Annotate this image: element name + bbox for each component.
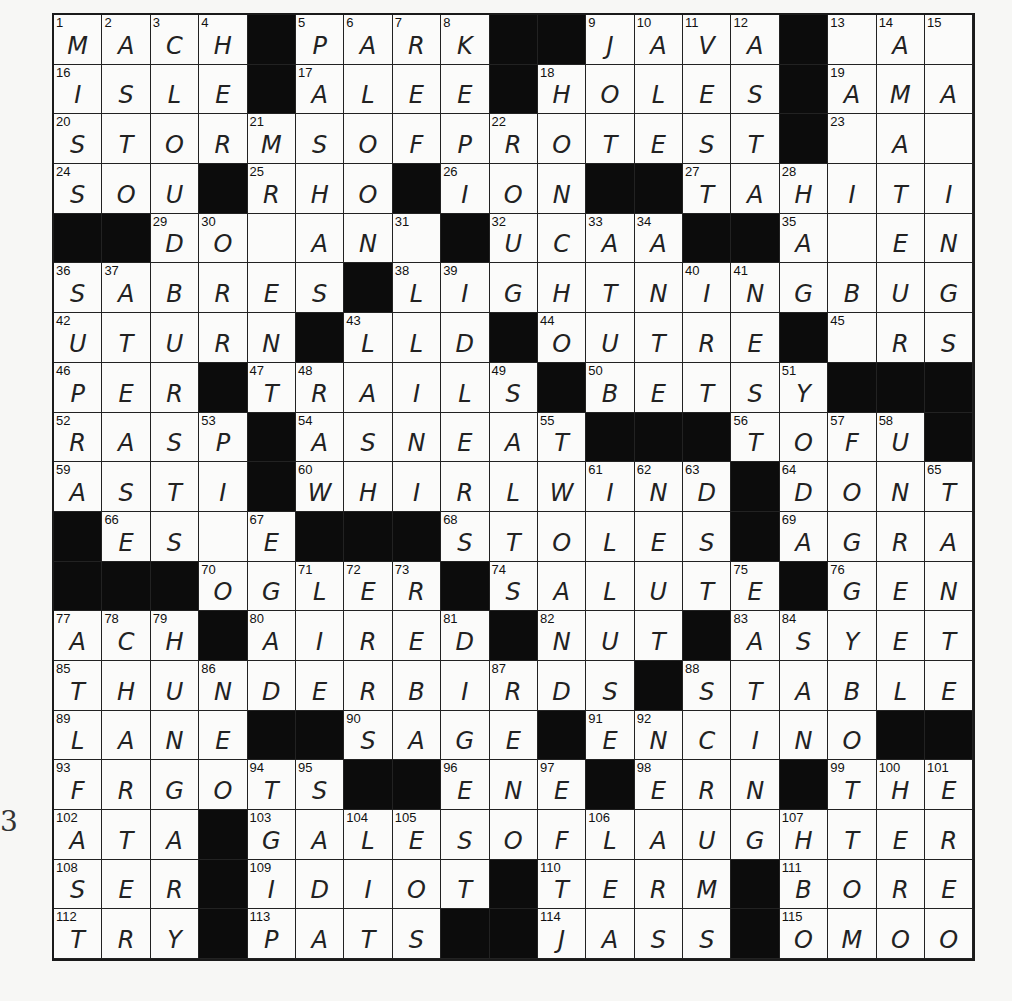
- grid-cell[interactable]: 26I: [441, 164, 489, 214]
- grid-cell[interactable]: 96E: [441, 760, 489, 810]
- grid-cell[interactable]: 11V: [683, 15, 731, 65]
- grid-cell[interactable]: E: [586, 860, 634, 910]
- grid-cell[interactable]: T: [635, 313, 683, 363]
- grid-cell[interactable]: O: [780, 413, 828, 463]
- grid-cell[interactable]: 60W: [296, 462, 344, 512]
- grid-cell[interactable]: U: [586, 313, 634, 363]
- grid-cell[interactable]: T: [683, 363, 731, 413]
- grid-cell[interactable]: T: [731, 661, 779, 711]
- grid-cell[interactable]: L: [490, 462, 538, 512]
- grid-cell[interactable]: D: [248, 661, 296, 711]
- grid-cell[interactable]: 14A: [877, 15, 925, 65]
- grid-cell[interactable]: H: [538, 263, 586, 313]
- grid-cell[interactable]: E: [877, 562, 925, 612]
- grid-cell[interactable]: S: [635, 909, 683, 959]
- grid-cell[interactable]: M: [877, 65, 925, 115]
- grid-cell[interactable]: O: [538, 114, 586, 164]
- grid-cell[interactable]: U: [683, 810, 731, 860]
- grid-cell[interactable]: O: [877, 909, 925, 959]
- grid-cell[interactable]: O: [586, 65, 634, 115]
- grid-cell[interactable]: [248, 214, 296, 264]
- grid-cell[interactable]: 95S: [296, 760, 344, 810]
- grid-cell[interactable]: T: [151, 462, 199, 512]
- grid-cell[interactable]: A: [635, 810, 683, 860]
- grid-cell[interactable]: H: [344, 462, 392, 512]
- grid-cell[interactable]: M: [683, 860, 731, 910]
- grid-cell[interactable]: 85T: [54, 661, 102, 711]
- grid-cell[interactable]: U: [151, 164, 199, 214]
- grid-cell[interactable]: 104L: [344, 810, 392, 860]
- grid-cell[interactable]: 41N: [731, 263, 779, 313]
- grid-cell[interactable]: 3C: [151, 15, 199, 65]
- grid-cell[interactable]: R: [344, 661, 392, 711]
- grid-cell[interactable]: 108S: [54, 860, 102, 910]
- grid-cell[interactable]: R: [151, 860, 199, 910]
- grid-cell[interactable]: 29D: [151, 214, 199, 264]
- grid-cell[interactable]: I: [925, 164, 973, 214]
- grid-cell[interactable]: T: [731, 114, 779, 164]
- grid-cell[interactable]: N: [925, 214, 973, 264]
- grid-cell[interactable]: D: [538, 661, 586, 711]
- grid-cell[interactable]: 70O: [199, 562, 247, 612]
- grid-cell[interactable]: R: [877, 860, 925, 910]
- grid-cell[interactable]: N: [780, 711, 828, 761]
- grid-cell[interactable]: 63D: [683, 462, 731, 512]
- grid-cell[interactable]: 88S: [683, 661, 731, 711]
- grid-cell[interactable]: 39I: [441, 263, 489, 313]
- grid-cell[interactable]: 91E: [586, 711, 634, 761]
- grid-cell[interactable]: C: [683, 711, 731, 761]
- grid-cell[interactable]: A: [925, 512, 973, 562]
- grid-cell[interactable]: 81D: [441, 611, 489, 661]
- grid-cell[interactable]: L: [393, 313, 441, 363]
- grid-cell[interactable]: 87R: [490, 661, 538, 711]
- grid-cell[interactable]: A: [296, 810, 344, 860]
- grid-cell[interactable]: 15: [925, 15, 973, 65]
- grid-cell[interactable]: 83A: [731, 611, 779, 661]
- grid-cell[interactable]: A: [151, 810, 199, 860]
- grid-cell[interactable]: T: [586, 263, 634, 313]
- grid-cell[interactable]: 72E: [344, 562, 392, 612]
- grid-cell[interactable]: F: [538, 810, 586, 860]
- grid-cell[interactable]: R: [877, 313, 925, 363]
- grid-cell[interactable]: 27T: [683, 164, 731, 214]
- grid-cell[interactable]: 101E: [925, 760, 973, 810]
- grid-cell[interactable]: 61I: [586, 462, 634, 512]
- grid-cell[interactable]: U: [877, 263, 925, 313]
- grid-cell[interactable]: 52R: [54, 413, 102, 463]
- grid-cell[interactable]: E: [393, 611, 441, 661]
- grid-cell[interactable]: O: [538, 512, 586, 562]
- grid-cell[interactable]: L: [441, 363, 489, 413]
- grid-cell[interactable]: 55T: [538, 413, 586, 463]
- grid-cell[interactable]: 7R: [393, 15, 441, 65]
- grid-cell[interactable]: 110T: [538, 860, 586, 910]
- grid-cell[interactable]: T: [586, 114, 634, 164]
- grid-cell[interactable]: A: [731, 164, 779, 214]
- grid-cell[interactable]: 115O: [780, 909, 828, 959]
- grid-cell[interactable]: U: [635, 562, 683, 612]
- grid-cell[interactable]: 22R: [490, 114, 538, 164]
- grid-cell[interactable]: E: [199, 65, 247, 115]
- grid-cell[interactable]: 67E: [248, 512, 296, 562]
- grid-cell[interactable]: 10A: [635, 15, 683, 65]
- grid-cell[interactable]: D: [296, 860, 344, 910]
- grid-cell[interactable]: R: [344, 611, 392, 661]
- grid-cell[interactable]: 36S: [54, 263, 102, 313]
- grid-cell[interactable]: I: [393, 363, 441, 413]
- grid-cell[interactable]: 103G: [248, 810, 296, 860]
- grid-cell[interactable]: R: [635, 860, 683, 910]
- grid-cell[interactable]: 56T: [731, 413, 779, 463]
- grid-cell[interactable]: 37A: [102, 263, 150, 313]
- grid-cell[interactable]: O: [828, 462, 876, 512]
- grid-cell[interactable]: S: [731, 363, 779, 413]
- grid-cell[interactable]: F: [393, 114, 441, 164]
- grid-cell[interactable]: G: [780, 263, 828, 313]
- grid-cell[interactable]: U: [586, 611, 634, 661]
- grid-cell[interactable]: 35A: [780, 214, 828, 264]
- grid-cell[interactable]: 99T: [828, 760, 876, 810]
- grid-cell[interactable]: 65T: [925, 462, 973, 512]
- grid-cell[interactable]: S: [731, 65, 779, 115]
- grid-cell[interactable]: O: [344, 164, 392, 214]
- grid-cell[interactable]: 77A: [54, 611, 102, 661]
- grid-cell[interactable]: 32U: [490, 214, 538, 264]
- grid-cell[interactable]: T: [877, 164, 925, 214]
